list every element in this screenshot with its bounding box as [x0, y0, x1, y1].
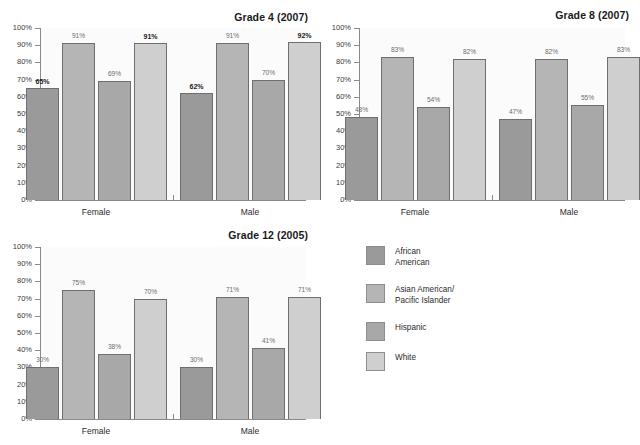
group-divider-tick — [173, 195, 174, 200]
x-axis-group-label: Male — [194, 207, 306, 217]
bar[interactable] — [607, 57, 640, 200]
plot-area: 0%10%20%30%40%50%60%70%80%90%100%65%91%6… — [40, 28, 306, 200]
y-axis-tick — [35, 419, 40, 420]
legend: African AmericanAsian American/ Pacific … — [366, 246, 566, 371]
x-axis-line — [40, 200, 306, 201]
bar[interactable] — [252, 348, 285, 419]
y-axis-tick — [354, 28, 359, 29]
y-axis-tick-label: 40% — [0, 346, 32, 354]
bar[interactable] — [345, 117, 378, 200]
bar-value-label: 30% — [180, 357, 213, 364]
y-axis-tick-label: 70% — [319, 76, 351, 84]
bar[interactable] — [26, 367, 59, 419]
bar[interactable] — [98, 354, 131, 419]
y-axis-tick-label: 90% — [0, 260, 32, 268]
y-axis-tick-label: 100% — [0, 243, 32, 251]
bar[interactable] — [381, 57, 414, 200]
bar[interactable] — [134, 43, 167, 200]
y-axis-tick-label: 50% — [0, 329, 32, 337]
legend-label: White — [395, 352, 416, 364]
x-axis-group-label: Female — [40, 426, 152, 436]
bar-value-label: 47% — [499, 109, 532, 116]
legend-swatch — [366, 352, 385, 371]
plot-area: 0%10%20%30%40%50%60%70%80%90%100%48%83%5… — [359, 28, 625, 200]
bar[interactable] — [62, 43, 95, 200]
bar-value-label: 91% — [134, 33, 167, 40]
x-axis-line — [40, 419, 306, 420]
bar-value-label: 82% — [453, 49, 486, 56]
bar[interactable] — [98, 81, 131, 200]
bar[interactable] — [134, 299, 167, 419]
bar[interactable] — [26, 88, 59, 200]
legend-swatch — [366, 322, 385, 341]
bar-value-label: 55% — [571, 95, 604, 102]
y-axis-tick — [35, 333, 40, 334]
y-axis-tick — [354, 200, 359, 201]
legend-label: Asian American/ Pacific Islander — [395, 284, 454, 306]
chart-panel-grade-8: Grade 8 (2007) 0%10%20%30%40%50%60%70%80… — [319, 0, 637, 222]
bar[interactable] — [252, 80, 285, 200]
bar-value-label: 69% — [98, 71, 131, 78]
y-axis-tick-label: 100% — [319, 24, 351, 32]
chart-panel-grade-4: Grade 4 (2007) 0%10%20%30%40%50%60%70%80… — [0, 0, 318, 222]
y-axis-tick-label: 60% — [0, 312, 32, 320]
y-axis-tick-label: 90% — [0, 41, 32, 49]
x-axis-group-label: Female — [40, 207, 152, 217]
y-axis-tick-label: 80% — [319, 58, 351, 66]
y-axis-tick — [35, 200, 40, 201]
bar-value-label: 83% — [381, 47, 414, 54]
bar[interactable] — [216, 43, 249, 200]
legend-swatch — [366, 246, 385, 265]
legend-swatch — [366, 284, 385, 303]
legend-item[interactable]: Asian American/ Pacific Islander — [366, 284, 454, 306]
bar[interactable] — [288, 42, 321, 200]
x-axis-group-label: Female — [359, 207, 471, 217]
bar-value-label: 82% — [535, 49, 568, 56]
legend-label: African American — [395, 246, 430, 268]
bar[interactable] — [453, 59, 486, 200]
bar[interactable] — [216, 297, 249, 419]
legend-item[interactable]: African American — [366, 246, 430, 268]
bar-value-label: 70% — [252, 70, 285, 77]
y-axis-tick — [354, 45, 359, 46]
x-axis-line — [359, 200, 625, 201]
bar-value-label: 30% — [26, 357, 59, 364]
chart-title: Grade 12 (2005) — [228, 229, 308, 241]
bar-value-label: 71% — [216, 287, 249, 294]
bar[interactable] — [180, 367, 213, 419]
y-axis-tick-label: 100% — [0, 24, 32, 32]
bar[interactable] — [417, 107, 450, 200]
legend-label: Hispanic — [395, 322, 426, 334]
x-axis-group-label: Male — [513, 207, 625, 217]
bar[interactable] — [499, 119, 532, 200]
y-axis-tick — [35, 45, 40, 46]
y-axis-tick — [35, 299, 40, 300]
y-axis-tick — [35, 316, 40, 317]
bar[interactable] — [571, 105, 604, 200]
bar[interactable] — [535, 59, 568, 200]
y-axis-tick — [354, 114, 359, 115]
y-axis-tick-label: 60% — [319, 93, 351, 101]
bar-value-label: 71% — [288, 287, 321, 294]
bar[interactable] — [288, 297, 321, 419]
y-axis-tick-label: 80% — [0, 277, 32, 285]
chart-title: Grade 4 (2007) — [234, 11, 308, 23]
bar[interactable] — [180, 93, 213, 200]
y-axis-tick-label: 90% — [319, 41, 351, 49]
bar-value-label: 65% — [26, 78, 59, 85]
bar-value-label: 38% — [98, 344, 131, 351]
bar[interactable] — [62, 290, 95, 419]
plot-area: 0%10%20%30%40%50%60%70%80%90%100%30%75%3… — [40, 247, 306, 419]
y-axis-tick — [35, 62, 40, 63]
legend-item[interactable]: White — [366, 352, 416, 371]
y-axis-tick — [35, 264, 40, 265]
bar-value-label: 41% — [252, 338, 285, 345]
y-axis-tick — [35, 28, 40, 29]
legend-item[interactable]: Hispanic — [366, 322, 426, 341]
y-axis-tick — [35, 247, 40, 248]
chart-panel-grade-12: Grade 12 (2005) 0%10%20%30%40%50%60%70%8… — [0, 222, 318, 445]
group-divider-tick — [492, 195, 493, 200]
bar-value-label: 62% — [180, 83, 213, 90]
x-axis-group-label: Male — [194, 426, 306, 436]
bar-value-label: 83% — [607, 47, 640, 54]
